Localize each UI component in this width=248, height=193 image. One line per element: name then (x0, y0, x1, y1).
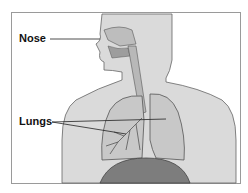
lungs-label: Lungs (19, 115, 52, 127)
respiratory-diagram: Nose Lungs (0, 0, 248, 193)
nose-label: Nose (19, 32, 46, 44)
respiratory-illustration (0, 0, 248, 193)
